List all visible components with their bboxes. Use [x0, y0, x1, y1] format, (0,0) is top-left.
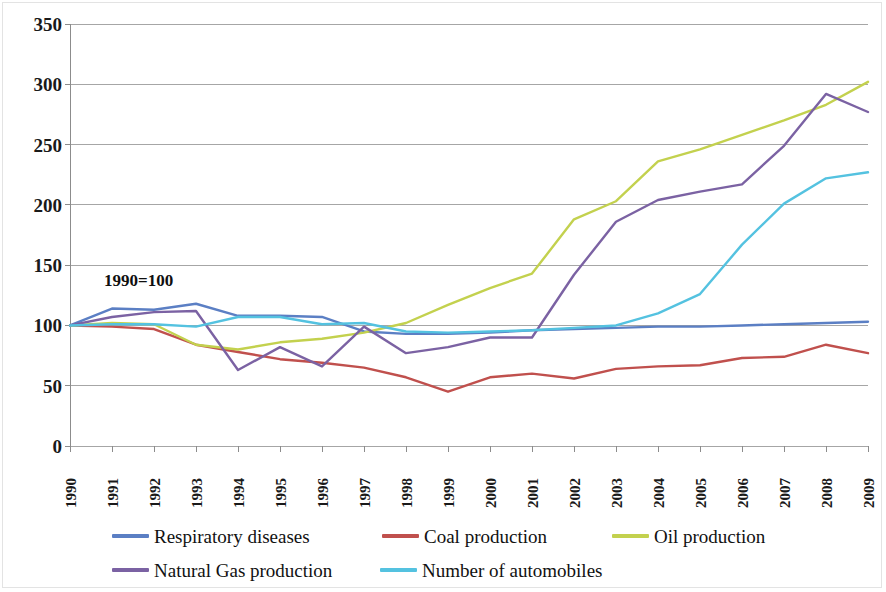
legend-swatch-icon: [612, 534, 649, 538]
x-tick-label: 1996: [315, 452, 329, 508]
x-tick-label: 2003: [609, 452, 623, 508]
x-tick-label: 1990: [63, 452, 77, 508]
axis-lines: [65, 24, 70, 446]
baseline-annotation: 1990=100: [104, 271, 173, 291]
legend-label: Number of automobiles: [422, 561, 602, 580]
series-line-oil-production: [70, 82, 868, 350]
plot-area: [70, 24, 868, 446]
gridlines: [70, 24, 868, 446]
legend-swatch-icon: [380, 568, 417, 572]
x-tick-label: 2007: [777, 452, 791, 508]
x-tick-label: 2005: [693, 452, 707, 508]
x-tick-label: 1999: [441, 452, 455, 508]
x-tick-label: 1992: [147, 452, 161, 508]
line-chart-figure: 350300250200150100500 199019911992199319…: [0, 0, 886, 592]
x-tick-label: 2002: [567, 452, 581, 508]
x-tick-label: 2001: [525, 452, 539, 508]
x-tick-label: 2008: [819, 452, 833, 508]
y-tick-label: 100: [4, 316, 62, 335]
chart-legend: Respiratory diseasesCoal productionOil p…: [112, 521, 872, 587]
y-tick-label: 0: [4, 437, 62, 456]
x-tick-label: 2004: [651, 452, 665, 508]
legend-item-number-of-automobiles[interactable]: Number of automobiles: [380, 555, 602, 585]
y-tick-label: 50: [4, 377, 62, 396]
legend-item-coal-production[interactable]: Coal production: [382, 521, 547, 551]
x-tick-label: 1998: [399, 452, 413, 508]
x-tick-label: 1994: [231, 452, 245, 508]
legend-swatch-icon: [382, 534, 419, 538]
legend-label: Respiratory diseases: [154, 527, 310, 546]
legend-item-oil-production[interactable]: Oil production: [612, 521, 765, 551]
legend-item-natural-gas-production[interactable]: Natural Gas production: [112, 555, 332, 585]
legend-swatch-icon: [112, 534, 149, 538]
y-tick-label: 150: [4, 256, 62, 275]
x-tick-label: 1997: [357, 452, 371, 508]
series-line-coal-production: [70, 325, 868, 391]
y-axis: 350300250200150100500: [0, 0, 62, 480]
y-tick-label: 300: [4, 75, 62, 94]
legend-item-respiratory-diseases[interactable]: Respiratory diseases: [112, 521, 310, 551]
y-tick-label: 350: [4, 15, 62, 34]
x-tick-label: 2009: [861, 452, 875, 508]
x-axis: 1990199119921993199419951996199719981999…: [70, 452, 870, 512]
x-tick-label: 1995: [273, 452, 287, 508]
x-tick-label: 1993: [189, 452, 203, 508]
plot-svg: [70, 24, 868, 446]
y-tick-label: 250: [4, 136, 62, 155]
x-tick-label: 1991: [105, 452, 119, 508]
legend-label: Oil production: [654, 527, 765, 546]
legend-swatch-icon: [112, 568, 149, 572]
x-tick-label: 2006: [735, 452, 749, 508]
series-line-number-of-automobiles: [70, 172, 868, 332]
series-lines: [70, 82, 868, 392]
legend-label: Coal production: [424, 527, 547, 546]
series-line-natural-gas-production: [70, 94, 868, 370]
series-line-respiratory-diseases: [70, 304, 868, 334]
x-tick-label: 2000: [483, 452, 497, 508]
y-tick-label: 200: [4, 196, 62, 215]
legend-label: Natural Gas production: [154, 561, 332, 580]
